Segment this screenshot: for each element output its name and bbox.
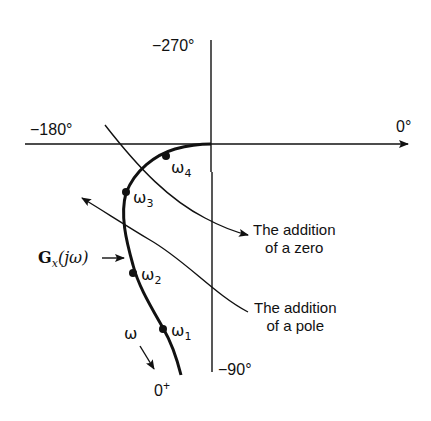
annotation-zero-line2: of a zero [253, 239, 336, 257]
label-omega-2: ω2 [141, 267, 161, 286]
pole-addition-curve [82, 198, 248, 312]
axis-label-left: −180° [30, 122, 72, 138]
gx-curve-label: Gx(jω) [38, 250, 88, 269]
annotation-zero: The addition of a zero [253, 221, 336, 257]
annotation-zero-line1: The addition [253, 221, 336, 239]
point-omega-4 [162, 152, 170, 160]
polar-plot-diagram [0, 0, 431, 421]
axis-label-bottom: −90° [218, 362, 252, 378]
point-omega-3 [122, 188, 130, 196]
zero-addition-curve [105, 125, 248, 235]
point-omega-1 [159, 325, 167, 333]
point-omega-2 [129, 269, 137, 277]
label-omega-1: ω1 [171, 323, 191, 342]
label-omega-3: ω3 [133, 190, 153, 209]
axis-label-right: 0° [396, 119, 411, 135]
omega-direction-arrow [140, 346, 154, 369]
omega-direction-label: ω [124, 326, 137, 342]
annotation-pole-line2: of a pole [254, 317, 337, 335]
axis-label-top: −270° [152, 38, 194, 54]
annotation-pole: The addition of a pole [254, 299, 337, 335]
label-omega-4: ω4 [171, 160, 191, 179]
start-label-zero-plus: 0+ [154, 380, 170, 399]
annotation-pole-line1: The addition [254, 299, 337, 317]
